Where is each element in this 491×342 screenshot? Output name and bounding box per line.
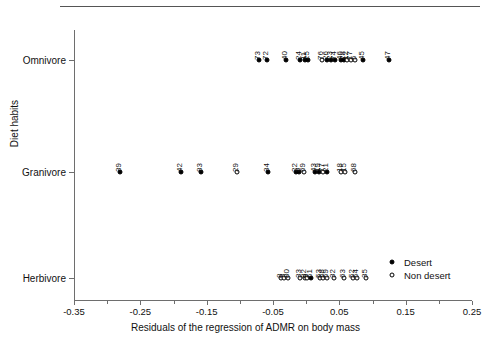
x-tick-label-5: 0.15: [396, 306, 415, 317]
legend-label-desert: Desert: [404, 257, 432, 268]
filled-circle-icon: [390, 260, 395, 265]
x-tick-minor-0: [107, 301, 108, 304]
x-tick-minor-3: [306, 301, 307, 304]
x-tick-major-3: [273, 301, 274, 305]
scatter-figure: OmnivoreGranivoreHerbivore -0.35-0.25-0.…: [0, 0, 491, 342]
data-point-label: 34: [263, 163, 271, 172]
x-tick-label-2: -0.15: [196, 306, 218, 317]
top-divider-rule: [60, 6, 480, 7]
y-axis-label-granivore: Granivore: [22, 167, 66, 178]
x-tick-minor-2: [240, 301, 241, 304]
data-point-label: 80: [283, 269, 291, 278]
x-tick-major-0: [74, 301, 75, 305]
open-circle-icon: [390, 273, 395, 278]
data-point-label: 25: [303, 51, 311, 60]
x-tick-major-2: [207, 301, 208, 305]
data-point-label: 83: [196, 163, 204, 172]
x-tick-minor-1: [174, 301, 175, 304]
y-axis-label-omnivore: Omnivore: [23, 55, 66, 66]
x-tick-major-1: [140, 301, 141, 305]
x-tick-major-4: [339, 301, 340, 305]
data-point-label: 39: [115, 163, 123, 172]
y-axis-label-herbivore: Herbivore: [23, 273, 66, 284]
legend-label-nondesert: Non desert: [404, 270, 450, 281]
legend: DesertNon desert: [384, 256, 450, 282]
y-axis-title: Diet habits: [9, 64, 20, 184]
data-point-label: 35: [361, 269, 369, 278]
x-tick-minor-4: [373, 301, 374, 304]
data-point-label: 72: [262, 51, 270, 60]
x-tick-major-6: [472, 301, 473, 305]
data-point-label: 69: [299, 163, 307, 172]
legend-item-desert[interactable]: Desert: [384, 256, 450, 269]
x-tick-label-6: 0.25: [463, 306, 482, 317]
data-point-label: 51: [306, 269, 314, 278]
data-point-label: 54: [352, 269, 360, 278]
data-point-label: 42: [176, 163, 184, 172]
data-point-label: 32: [329, 269, 337, 278]
data-point-label: 21: [322, 163, 330, 172]
legend-item-nondesert[interactable]: Non desert: [384, 269, 450, 282]
data-point-label: 29: [232, 163, 240, 172]
data-point-label: 47: [384, 51, 392, 60]
x-axis-title: Residuals of the regression of ADMR on b…: [0, 322, 491, 333]
data-point-label: 68: [350, 163, 358, 172]
x-tick-label-0: -0.35: [63, 306, 85, 317]
data-point-label: 63: [339, 269, 347, 278]
x-tick-minor-5: [439, 301, 440, 304]
x-tick-label-1: -0.25: [130, 306, 152, 317]
legend-marker-desert-icon: [384, 256, 400, 269]
data-point-label: 40: [281, 51, 289, 60]
data-point-label: 45: [358, 51, 366, 60]
x-tick-label-4: 0.05: [330, 306, 349, 317]
x-tick-label-3: -0.05: [262, 306, 284, 317]
data-point-label: 15: [340, 163, 348, 172]
legend-marker-nondesert-icon: [384, 269, 400, 282]
x-tick-major-5: [406, 301, 407, 305]
